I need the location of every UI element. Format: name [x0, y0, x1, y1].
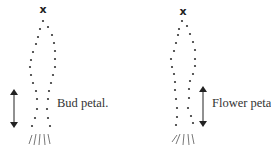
stem-lines-icon [172, 134, 194, 145]
bud-petal-figure: x [14, 3, 56, 145]
petal-diagram: x [0, 0, 271, 147]
bud-outline-dots [29, 20, 56, 127]
bud-petal-label: Bud petal. [57, 96, 108, 111]
flower-petal-label: Flower petal. [212, 96, 271, 111]
flower-petal-figure: x [170, 5, 203, 145]
x-mark-icon: x [39, 3, 46, 16]
diagram-canvas: x [0, 0, 271, 147]
stem-lines-icon [29, 134, 50, 145]
flower-outline-dots [170, 20, 196, 126]
x-mark-icon: x [179, 5, 186, 18]
